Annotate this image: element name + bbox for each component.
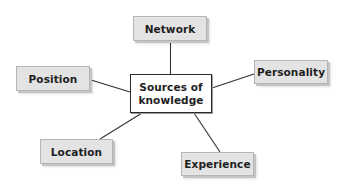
central-node-sources-of-knowledge: Sources of knowledge <box>130 74 212 113</box>
node-location-label: Location <box>51 146 102 158</box>
node-network-label: Network <box>145 23 196 35</box>
node-position-label: Position <box>29 73 78 85</box>
central-node-label-line1: Sources of <box>139 81 202 94</box>
edge-center-experience <box>194 113 220 152</box>
edge-center-location <box>100 113 142 139</box>
central-node-label-line2: knowledge <box>138 94 203 107</box>
node-location: Location <box>40 139 113 164</box>
node-personality-label: Personality <box>257 66 325 78</box>
edge-center-personality <box>212 74 254 88</box>
node-experience-label: Experience <box>184 158 250 170</box>
edge-center-position <box>91 80 130 92</box>
node-personality: Personality <box>254 60 328 84</box>
node-experience: Experience <box>181 152 254 176</box>
diagram-canvas: Sources of knowledge Network Personality… <box>0 0 340 186</box>
node-network: Network <box>133 16 207 41</box>
node-position: Position <box>16 66 90 91</box>
